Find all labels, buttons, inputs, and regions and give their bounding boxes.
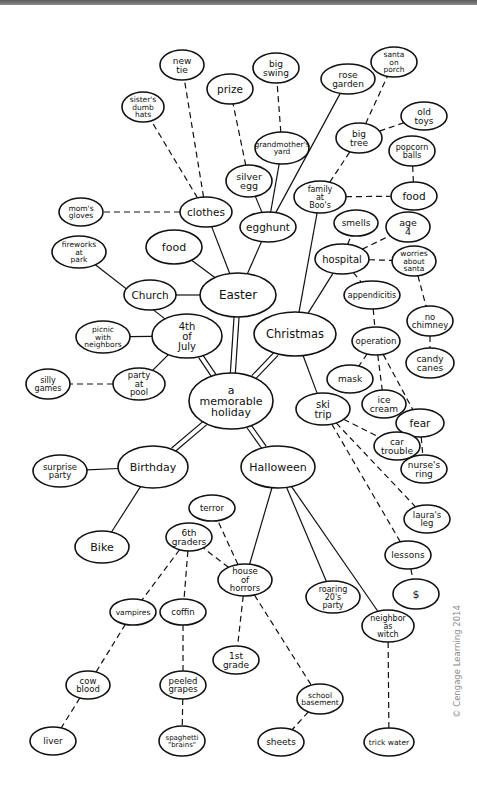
edge-operation-to-ice-cream [378,355,382,390]
edge-clothes-to-new-tie [184,80,203,197]
node-sheets: sheets [258,728,304,756]
edge-halloween-to-house-horrors [250,488,272,565]
edge-ski-trip-to-car-trouble [344,419,380,437]
node-candy-canes: candycanes [406,348,454,378]
node-label: Bike [90,541,114,554]
node-label: Church [131,289,168,301]
node-grandmothers-yard: grandmother'syard [254,132,309,164]
edge-egghunt-to-silver-egg [255,196,262,212]
edge-christmas-to-hospital [308,273,333,313]
node-lauras-leg: laura'sleg [404,505,450,533]
node-label: liver [43,736,63,746]
edge-center-to-birthday [175,425,207,452]
node-label: sheets [266,737,296,747]
node-label: egg [240,180,258,191]
node-label: Boo's [309,201,331,210]
node-mask: mask [327,365,373,393]
node-vampires: vampires [110,599,156,625]
node-label: holiday [211,406,252,419]
node-label: basement [301,698,339,707]
node-label: canes [417,363,444,373]
edge-christmas-to-family-boos [299,213,317,312]
node-label: grade [223,660,250,670]
node-new-tie: newtie [160,50,204,80]
node-label: appendicitis [348,291,397,300]
node-label: lessons [391,550,425,560]
node-label: trip [314,409,331,420]
edge-hospital-to-age-4 [362,236,390,249]
node-label: neighbors [84,340,121,349]
edge-worries-santa-to-no-chimney [418,276,426,306]
node-label: July [177,341,196,352]
node-neighbor-witch: neighboraswitch [362,610,414,642]
edge-birthday-to-surprise-party [87,469,118,470]
node-label: grapes [168,684,198,694]
edge-easter-to-food-easter [192,260,215,277]
edge-july4-to-party-pool [153,355,169,371]
node-silver-egg: silveregg [226,165,272,197]
node-label: egghunt [246,221,290,233]
node-label: operation [356,336,397,346]
edge-house-horrors-to-school-basement [254,595,311,685]
node-cow-blood: cowblood [66,671,110,699]
edge-halloween-to-roaring-20s [287,487,327,581]
node-label: food [162,241,186,254]
edge-clothes-to-sisters-hats [151,121,197,198]
node-july4: 4thofJuly [152,314,222,358]
node-peeled-grapes: peeledgrapes [160,671,206,699]
node-label: park [71,255,88,264]
node-label: witch [377,630,398,639]
node-label: Halloween [249,461,306,474]
copyright-credit: © Cengage Learning 2014 [452,605,462,718]
node-operation: operation [352,327,400,355]
node-party-pool: partyatpool [113,368,165,400]
node-label: graders [172,537,207,547]
node-hospital: hospital [315,244,369,274]
node-surprise-party: surpriseparty [33,455,87,487]
node-label: hats [135,110,151,119]
node-label: $ [413,588,420,601]
node-6th-graders: 6thgraders [166,523,212,551]
node-trick-water: trick water [364,728,414,756]
node-label: blood [76,684,100,694]
node-church: Church [124,280,176,310]
node-label: balls [403,151,422,160]
edge-hospital-to-appendicitis [353,273,361,282]
node-appendicitis: appendicitis [344,281,400,309]
edge-christmas-to-ski-trip [303,356,317,394]
node-prize: prize [207,74,253,104]
edge-birthday-to-bike [112,487,141,532]
node-fireworks-park: fireworksatpark [52,236,106,268]
edge-vampires-to-cow-blood [96,624,125,672]
node-lessons: lessons [385,541,431,569]
node-label: party [322,601,343,610]
edge-family-boos-to-big-tree [330,152,350,182]
edge-silver-egg-to-prize [233,104,246,165]
node-label: clothes [187,206,225,218]
node-food-easter: food [146,230,202,264]
node-center: amemorableholiday [189,373,273,429]
node-label: games [35,384,62,393]
edge-school-basement-to-sheets [292,712,308,730]
node-spaghetti-brains: spaghetti"brains" [159,726,205,756]
node-label: cream [370,404,398,414]
edge-center-to-july4 [203,355,216,374]
node-terror: terror [189,495,235,521]
node-coffin: coffin [160,599,206,625]
edge-appendicitis-to-operation [373,309,375,327]
edge-big-tree-to-old-toys [379,123,403,131]
node-house-horrors: houseofhorrors [218,564,272,596]
edge-easter-to-egghunt [247,242,261,274]
edge-center-to-halloween [247,428,262,449]
node-nurses-ring: nurse'sring [401,455,447,483]
node-halloween: Halloween [241,446,315,488]
node-label: Birthday [130,461,177,474]
node-birthday: Birthday [118,446,188,488]
edge-fear-to-nurses-ring [421,437,423,455]
node-label: gloves [69,211,93,220]
edge-egghunt-to-grandmothers-yard [271,164,280,212]
node-label: hospital [322,254,362,265]
edge-6th-graders-to-coffin [184,551,188,599]
edge-center-to-easter [230,317,234,373]
edge-center-to-christmas [252,352,275,376]
